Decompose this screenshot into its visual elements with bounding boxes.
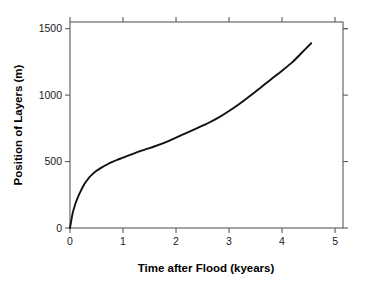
x-tick-label-2: 2 [173,235,179,247]
x-tick-label-0: 0 [67,235,73,247]
y-tick-label-1000: 1000 [39,89,63,101]
y-tick-label-500: 500 [44,155,62,167]
chart-figure: 012345 050010001500 Time after Flood (ky… [0,0,369,282]
x-axis-title: Time after Flood (kyears) [138,262,275,274]
y-tick-label-0: 0 [56,222,62,234]
x-tick-label-5: 5 [332,235,338,247]
y-tick-label-1500: 1500 [39,22,63,34]
y-axis-tick-labels: 050010001500 [39,22,63,233]
data-curve-position-of-layers [70,43,311,228]
x-tick-label-1: 1 [120,235,126,247]
x-axis-tick-labels: 012345 [67,235,338,247]
x-tick-label-4: 4 [279,235,285,247]
y-axis-title: Position of Layers (m) [12,64,24,185]
y-axis-ticks [65,29,348,228]
chart-canvas: 012345 050010001500 Time after Flood (ky… [0,0,369,282]
x-tick-label-3: 3 [226,235,232,247]
